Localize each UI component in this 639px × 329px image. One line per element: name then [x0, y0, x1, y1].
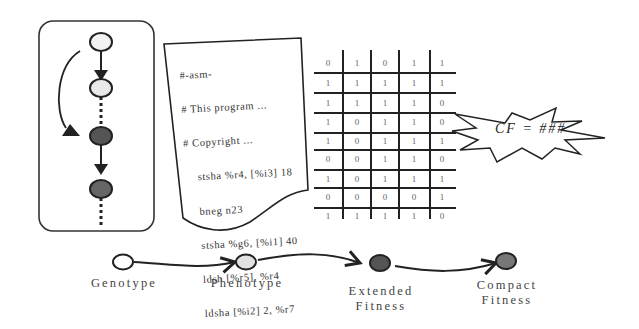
phenotype-label: Phenotype	[206, 276, 288, 291]
code-line: #-asm-	[179, 64, 289, 81]
matrix-cell: 0	[428, 98, 456, 108]
matrix-cell: 1	[314, 98, 342, 108]
matrix-cell: 1	[400, 136, 428, 146]
matrix-cell: 1	[371, 117, 399, 127]
compact-fitness-node-icon	[90, 180, 112, 198]
extended-fitness-label-line1: Extended	[340, 284, 422, 299]
matrix-cell: 0	[428, 154, 456, 164]
curved-arrow-icon	[59, 51, 80, 128]
matrix-cell: 1	[371, 78, 399, 88]
code-line: ldsha [%i2] 2, %r7	[192, 303, 302, 320]
matrix-cell: 0	[314, 192, 342, 202]
matrix-cell: 1	[400, 98, 428, 108]
matrix-cell: 1	[314, 211, 342, 221]
matrix-cell: 1	[428, 192, 456, 202]
matrix-cell: 1	[400, 58, 428, 68]
code-line: # Copyright ...	[183, 132, 293, 149]
extended-fitness-stage-icon	[370, 255, 390, 271]
matrix-cell: 0	[314, 154, 342, 164]
genotype-stage-icon	[113, 255, 133, 270]
matrix-cell: 1	[343, 211, 371, 221]
matrix-cell: 1	[314, 136, 342, 146]
matrix-cell: 0	[343, 117, 371, 127]
compact-fitness-label: Compact Fitness	[466, 278, 548, 308]
code-line: bneg n23	[186, 201, 296, 218]
evaluation-chain-box	[39, 21, 154, 231]
code-line: stsha %r4, [%i3] 18	[185, 167, 295, 184]
matrix-cell: 0	[400, 192, 428, 202]
matrix-cell: 1	[428, 174, 456, 184]
matrix-cell: 1	[428, 58, 456, 68]
matrix-cell: 0	[343, 154, 371, 164]
matrix-cell: 0	[428, 117, 456, 127]
matrix-cell: 1	[343, 58, 371, 68]
matrix-cell: 1	[371, 98, 399, 108]
extended-fitness-label-line2: Fitness	[340, 299, 422, 314]
matrix-cell: 1	[371, 154, 399, 164]
phenotype-label-text: Phenotype	[206, 276, 288, 291]
matrix-cell: 1	[371, 174, 399, 184]
matrix-cell: 1	[314, 78, 342, 88]
matrix-cell: 1	[314, 117, 342, 127]
matrix-cell: 0	[343, 136, 371, 146]
matrix-cell: 1	[428, 136, 456, 146]
extended-fitness-label: Extended Fitness	[340, 284, 422, 314]
pipeline-flow	[113, 253, 516, 271]
genotype-label-text: Genotype	[88, 276, 160, 291]
matrix-cell: 0	[343, 174, 371, 184]
matrix-cell: 1	[371, 136, 399, 146]
matrix-cell: 1	[400, 174, 428, 184]
compact-fitness-label-line1: Compact	[466, 278, 548, 293]
compact-fitness-value: CF = ###	[495, 121, 566, 137]
matrix-cell: 1	[343, 98, 371, 108]
compact-fitness-label-line2: Fitness	[466, 293, 548, 308]
matrix-cell: 1	[400, 117, 428, 127]
phenotype-node-icon	[90, 79, 112, 97]
matrix-cell: 1	[428, 78, 456, 88]
genotype-node-icon	[90, 33, 112, 51]
matrix-cell: 1	[314, 174, 342, 184]
matrix-cell: 0	[343, 192, 371, 202]
matrix-cell: 0	[314, 58, 342, 68]
matrix-cell: 0	[371, 58, 399, 68]
matrix-cell: 1	[400, 154, 428, 164]
matrix-cell: 1	[343, 78, 371, 88]
compact-fitness-stage-icon	[496, 253, 516, 269]
matrix-cell: 0	[371, 192, 399, 202]
extended-fitness-node-icon	[90, 127, 112, 145]
code-line: stsha %g6, [%i1] 40	[188, 235, 298, 252]
code-line: # This program ...	[181, 98, 291, 115]
matrix-cell: 0	[428, 211, 456, 221]
matrix-cell: 1	[400, 78, 428, 88]
matrix-cell: 1	[371, 211, 399, 221]
genotype-label: Genotype	[88, 276, 160, 291]
matrix-cell: 1	[400, 211, 428, 221]
